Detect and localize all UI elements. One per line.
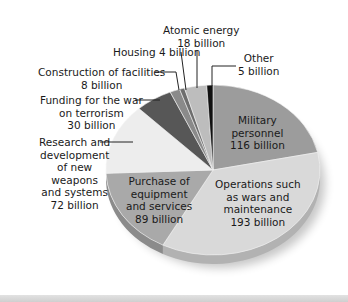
- label-line: Purchase of: [126, 175, 192, 188]
- label-line: 116 billion: [230, 139, 285, 152]
- label-line: on terrorism: [40, 107, 143, 120]
- label-housing: Housing 4 billion: [113, 46, 200, 59]
- label-line: maintenance: [215, 203, 301, 216]
- label-line: Research and: [39, 136, 110, 149]
- label-purchase: Purchase ofequipmentand services89 billi…: [126, 175, 192, 225]
- label-line: 5 billion: [238, 65, 279, 78]
- label-line: Atomic energy: [163, 24, 239, 37]
- label-line: personnel: [230, 127, 285, 140]
- label-line: Military: [230, 114, 285, 127]
- label-line: Housing 4 billion: [113, 46, 200, 59]
- label-construction: Construction of facilities8 billion: [38, 66, 165, 91]
- label-line: 193 billion: [215, 216, 301, 229]
- label-line: Construction of facilities: [38, 66, 165, 79]
- label-operations: Operations suchas wars andmaintenance193…: [215, 178, 301, 228]
- label-line: and systems: [39, 186, 110, 199]
- label-line: Funding for the war: [40, 94, 143, 107]
- label-line: Other: [238, 52, 279, 65]
- label-line: as wars and: [215, 191, 301, 204]
- label-line: Operations such: [215, 178, 301, 191]
- label-line: development: [39, 149, 110, 162]
- label-line: of new: [39, 161, 110, 174]
- label-line: 72 billion: [39, 199, 110, 212]
- label-research: Research anddevelopmentof newweaponsand …: [39, 136, 110, 211]
- bottom-bar: [0, 295, 348, 302]
- leader-other: [212, 66, 236, 86]
- label-line: and services: [126, 200, 192, 213]
- label-line: equipment: [126, 188, 192, 201]
- label-line: 30 billion: [40, 119, 143, 132]
- label-line: 89 billion: [126, 213, 192, 226]
- label-war: Funding for the waron terrorism30 billio…: [40, 94, 143, 132]
- label-military: Militarypersonnel116 billion: [230, 114, 285, 152]
- label-other: Other5 billion: [238, 52, 279, 77]
- label-line: weapons: [39, 174, 110, 187]
- label-line: 8 billion: [38, 79, 165, 92]
